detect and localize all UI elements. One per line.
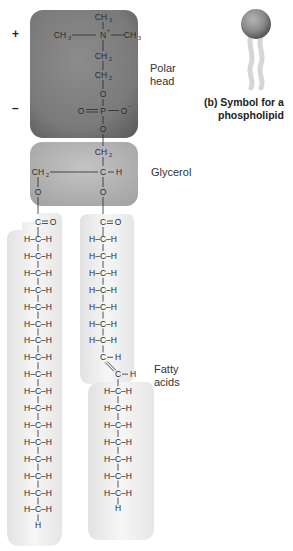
methylene-row: H–C–H [24, 454, 52, 464]
carbonyl-carbon-left: C [35, 217, 41, 227]
polar-head-box [30, 10, 138, 138]
symbol-caption: (b) Symbol for a phospholipid [204, 96, 284, 121]
alkene-carbon-2: C [115, 369, 121, 379]
phosphate-double-oxygen: O [78, 106, 85, 116]
subscript: 2 [109, 56, 112, 62]
subscript: + [107, 27, 110, 33]
subscript: 2 [46, 172, 49, 178]
methylene-row: H–C–H [104, 454, 132, 464]
methylene-row: H–C–H [89, 234, 117, 244]
methylene-row: H–C–H [89, 302, 117, 312]
glycerol-h: H [116, 167, 122, 177]
methylene-row: H–C–H [89, 285, 117, 295]
phosphorus-atom: P [100, 106, 106, 116]
methylene-row: H–C–H [24, 471, 52, 481]
fatty-acids-label-line2: acids [154, 376, 180, 389]
methylene-row: H–C–H [24, 285, 52, 295]
choline-ch2-1: CH [95, 51, 107, 61]
methylene-row: H–C–H [24, 420, 52, 430]
phosphate-ester-oxygen: O [100, 89, 107, 99]
carbonyl-oxygen-left: O [50, 217, 57, 227]
carbonyl-carbon-right: C [100, 217, 106, 227]
carbonyl-oxygen-right: O [115, 217, 122, 227]
methyl-right: CH [124, 30, 136, 40]
phosphate-glycerol-oxygen: O [100, 124, 107, 134]
structural-formula: CH3CH3N+CH3CH2CH2OOPO−OCH2CH2CHOOCOH–C–H… [0, 0, 293, 551]
methylene-row: H–C–H [104, 420, 132, 430]
methylene-row: H–C–H [24, 352, 52, 362]
methylene-row: H–C–H [24, 302, 52, 312]
methylene-row: H–C–H [24, 403, 52, 413]
ester-oxygen-left: O [35, 187, 42, 197]
subscript: 3 [68, 35, 71, 41]
methylene-row: H–C–H [89, 319, 117, 329]
polar-head-label: Polar head [150, 62, 176, 88]
subscript: − [128, 103, 131, 109]
methylene-row: H–C–H [24, 335, 52, 345]
ester-oxygen-right: O [100, 187, 107, 197]
alkene-hydrogen-1: H [115, 352, 121, 362]
nitrogen-atom: N [100, 30, 106, 40]
symbol-caption-line1: (b) Symbol for a [204, 96, 284, 109]
subscript: 3 [138, 35, 141, 41]
alkene-hydrogen-2: H [130, 369, 136, 379]
polar-head-label-line2: head [150, 75, 176, 88]
terminal-hydrogen-left: H [35, 520, 41, 530]
phospholipid-symbol-icon [241, 9, 271, 88]
symbol-caption-line2: phospholipid [204, 109, 284, 122]
subscript: 2 [109, 152, 112, 158]
subscript: 3 [109, 17, 112, 23]
glycerol-c: C [100, 167, 106, 177]
glycerol-ch2-left: CH [32, 167, 44, 177]
choline-ch2-2: CH [95, 70, 107, 80]
methylene-row: H–C–H [24, 386, 52, 396]
glycerol-ch2-top: CH [95, 147, 107, 157]
methylene-row: H–C–H [104, 488, 132, 498]
positive-charge-label: + [12, 27, 19, 41]
methylene-row: H–C–H [24, 488, 52, 498]
methylene-row: H–C–H [104, 403, 132, 413]
fatty-acids-label-line1: Fatty [154, 363, 180, 376]
fatty-acids-label: Fatty acids [154, 363, 180, 389]
terminal-hydrogen-right: H [115, 503, 121, 513]
methylene-row: H–C–H [89, 268, 117, 278]
subscript: 2 [109, 75, 112, 81]
phosphate-anion-oxygen: O [121, 106, 128, 116]
methylene-row: H–C–H [104, 386, 132, 396]
methylene-row: H–C–H [104, 471, 132, 481]
methylene-row: H–C–H [24, 504, 52, 514]
phospholipid-diagram: CH3CH3N+CH3CH2CH2OOPO−OCH2CH2CHOOCOH–C–H… [0, 0, 293, 551]
polar-head-label-line1: Polar [150, 62, 176, 75]
methylene-row: H–C–H [24, 319, 52, 329]
methyl-left: CH [54, 30, 66, 40]
glycerol-label: Glycerol [151, 166, 191, 179]
methylene-row: H–C–H [89, 335, 117, 345]
methylene-row: H–C–H [89, 251, 117, 261]
methylene-row: H–C–H [24, 234, 52, 244]
negative-charge-label: – [12, 101, 19, 115]
methylene-row: H–C–H [24, 369, 52, 379]
alkene-carbon-1: C [100, 352, 106, 362]
methylene-row: H–C–H [24, 268, 52, 278]
methylene-row: H–C–H [24, 437, 52, 447]
methylene-row: H–C–H [104, 437, 132, 447]
methyl-top: CH [95, 12, 107, 22]
methylene-row: H–C–H [24, 251, 52, 261]
